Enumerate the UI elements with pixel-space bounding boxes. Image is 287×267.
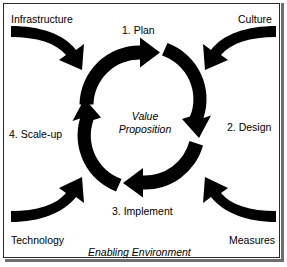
footer-label-enabling-environment: Enabling Environment [88,246,191,258]
cycle-step-label-scale-up: 4. Scale-up [9,128,62,140]
center-label-line-2: Proposition [119,123,172,135]
enabler-arrow-measures [203,177,276,222]
cycle-arrow-implement [123,141,203,198]
enabler-label-culture: Culture [238,13,272,25]
enabler-label-infrastructure: Infrastructure [11,13,73,25]
enabler-label-measures: Measures [229,234,275,246]
center-label-value-proposition: ValueProposition [103,110,187,136]
value-proposition-diagram: Infrastructure Culture Technology Measur… [0,0,287,267]
enabler-arrow-technology [11,177,84,222]
cycle-step-label-plan: 1. Plan [122,24,155,36]
cycle-arrow-plan [80,38,161,105]
cycle-step-label-implement: 3. Implement [112,205,173,217]
center-label-line-1: Value [132,110,158,122]
enabler-label-technology: Technology [11,234,64,246]
enabler-arrow-culture [203,26,276,70]
enabler-arrow-infrastructure [11,26,84,70]
cycle-step-label-design: 2. Design [227,121,271,133]
